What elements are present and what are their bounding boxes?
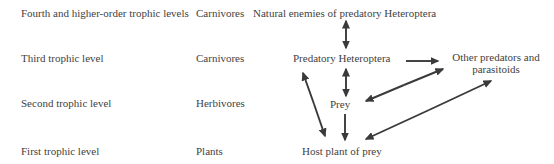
level-label-third: Third trophic level [21, 53, 103, 64]
arrow-predatory-host-plant [303, 73, 325, 136]
category-label-plants: Plants [196, 146, 223, 157]
arrow-prey-other [366, 69, 443, 101]
node-other-predators: Other predators and parasitoids [441, 51, 551, 75]
category-label-carnivores-top: Carnivores [196, 8, 244, 19]
node-prey: Prey [330, 99, 350, 110]
category-label-carnivores: Carnivores [196, 53, 244, 64]
node-predatory-heteroptera: Predatory Heteroptera [293, 53, 390, 64]
category-label-herbivores: Herbivores [196, 98, 245, 109]
trophic-levels-diagram: Fourth and higher-order trophic levels T… [0, 0, 554, 164]
level-label-second: Second trophic level [21, 98, 111, 109]
node-natural-enemies: Natural enemies of predatory Heteroptera [253, 8, 436, 19]
arrows-layer [0, 0, 554, 164]
arrow-host-plant-other [366, 81, 491, 139]
level-label-fourth: Fourth and higher-order trophic levels [21, 8, 189, 19]
level-label-first: First trophic level [21, 146, 99, 157]
node-host-plant: Host plant of prey [302, 146, 382, 157]
